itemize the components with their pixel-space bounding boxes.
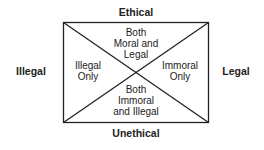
region-immoral-and-illegal: Both Immoral and Illegal (104, 84, 168, 117)
region-illegal-only: Illegal Only (68, 60, 108, 82)
axis-label-legal: Legal (216, 66, 256, 77)
axis-label-unethical: Unethical (101, 128, 171, 139)
region-immoral-only: Immoral Only (156, 60, 204, 82)
axis-label-ethical: Ethical (106, 7, 166, 18)
axis-label-illegal: Illegal (8, 66, 54, 77)
region-moral-and-legal: Both Moral and Legal (106, 27, 166, 60)
